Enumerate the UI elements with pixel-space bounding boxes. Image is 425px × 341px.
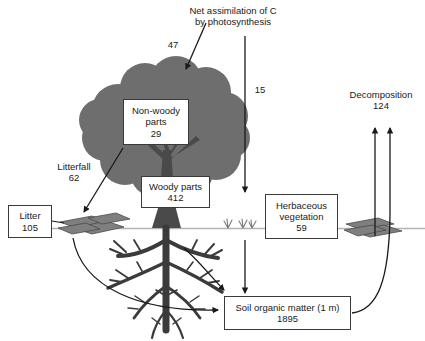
pool-box-woody-parts: Woody parts 412 — [141, 176, 210, 208]
pool-value: 59 — [296, 222, 307, 233]
flux-label-decomposition: Decomposition 124 — [338, 89, 424, 112]
pool-box-litter: Litter 105 — [8, 205, 52, 238]
pool-box-soil-organic-matter: Soil organic matter (1 m) 1895 — [224, 296, 351, 330]
tree-roots — [108, 228, 222, 338]
diagram-title-line1: Net assimilation of C — [168, 5, 298, 16]
litter-patch-right — [344, 218, 402, 237]
flux-label-assimilation-herbaceous: 15 — [250, 84, 270, 95]
flux-name: Decomposition — [338, 89, 424, 100]
flux-label-litterfall: Litterfall 62 — [43, 161, 105, 184]
pool-label-line1: Herbaceous — [276, 200, 327, 211]
flux-value: 124 — [338, 100, 424, 111]
arrow-assimilation-tree — [186, 23, 206, 69]
pool-box-non-woody-parts: Non-woody parts 29 — [123, 99, 189, 145]
grass-tufts — [224, 219, 256, 228]
flux-value: 15 — [250, 84, 270, 95]
pool-label-line2: parts — [145, 116, 166, 127]
pool-label-line1: Litter — [19, 210, 40, 221]
carbon-cycle-diagram: Non-woody parts 29 Woody parts 412 Litte… — [0, 0, 425, 341]
pool-label-line2: vegetation — [280, 211, 324, 222]
flux-label-assimilation-tree: 47 — [162, 39, 184, 50]
diagram-title-line2: by photosynthesis — [168, 16, 298, 27]
flux-name: Litterfall — [43, 161, 105, 172]
diagram-title: Net assimilation of C by photosynthesis — [168, 5, 298, 28]
pool-label-line1: Woody parts — [149, 181, 202, 192]
pool-box-herbaceous-vegetation: Herbaceous vegetation 59 — [265, 194, 338, 239]
flux-value: 62 — [43, 172, 105, 183]
pool-label-line1: Non-woody — [132, 105, 180, 116]
pool-value: 412 — [168, 192, 184, 203]
pool-value: 1895 — [277, 313, 298, 324]
pool-label-line1: Soil organic matter (1 m) — [235, 302, 339, 313]
flux-value: 47 — [162, 39, 184, 50]
pool-value: 105 — [22, 222, 38, 233]
litter-patch-left — [58, 213, 130, 234]
pool-value: 29 — [151, 128, 162, 139]
